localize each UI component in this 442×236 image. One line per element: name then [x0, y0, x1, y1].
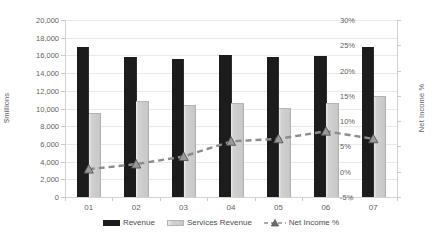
chart-container: $millions Net Income % 01020304050607 02… [0, 0, 442, 236]
y-axis-title-right: Net Income % [417, 84, 426, 132]
x-tick [302, 197, 303, 201]
y-axis-left-tick-label: 12,000 [19, 86, 59, 95]
x-axis-tick-label: 01 [84, 203, 93, 212]
y-tick-right [397, 20, 401, 21]
legend-item[interactable]: Revenue [103, 218, 155, 227]
x-tick [255, 197, 256, 201]
y-axis-left-tick-label: 14,000 [19, 69, 59, 78]
y-axis-left-tick-label: 16,000 [19, 51, 59, 60]
y-axis-left-tick-label: 6,000 [19, 139, 59, 148]
y-axis-left-tick-label: 2,000 [19, 175, 59, 184]
y-axis-right-tick-label: 10% [340, 117, 374, 126]
x-tick [65, 197, 66, 201]
dashed-line-triangle-swatch [264, 219, 286, 227]
y-axis-right-tick-label: -5% [340, 193, 374, 202]
x-axis-tick-label: 03 [179, 203, 188, 212]
legend-item[interactable]: Net Income % [264, 218, 339, 227]
y-axis-left-tick-label: 8,000 [19, 122, 59, 131]
y-axis-left-tick-label: 10,000 [19, 104, 59, 113]
x-axis-tick-label: 04 [227, 203, 236, 212]
y-axis-right-tick-label: 15% [340, 91, 374, 100]
y-axis-left-tick-label: 0 [19, 193, 59, 202]
y-tick-right [397, 71, 401, 72]
legend-item[interactable]: Services Revenue [167, 218, 252, 227]
x-axis-tick-label: 02 [132, 203, 141, 212]
legend-label: Revenue [123, 218, 155, 227]
net-income-marker [274, 134, 283, 143]
y-axis-left-tick-label: 18,000 [19, 33, 59, 42]
chart-legend: RevenueServices RevenueNet Income % [0, 218, 442, 227]
x-tick [397, 197, 398, 201]
legend-label: Net Income % [289, 218, 339, 227]
y-axis-left-tick-label: 4,000 [19, 157, 59, 166]
x-tick [207, 197, 208, 201]
y-axis-right-tick-label: 25% [340, 41, 374, 50]
y-tick-right [397, 45, 401, 46]
y-axis-right-line [397, 20, 398, 197]
x-tick [160, 197, 161, 201]
net-income-marker [226, 137, 235, 146]
y-tick-right [397, 146, 401, 147]
y-axis-right-tick-label: 0% [340, 167, 374, 176]
x-tick [112, 197, 113, 201]
y-axis-title-left: $millions [2, 93, 11, 123]
y-tick-right [397, 172, 401, 173]
x-axis-tick-label: 05 [274, 203, 283, 212]
y-axis-right-tick-label: 5% [340, 142, 374, 151]
y-axis-left-tick-label: 20,000 [19, 16, 59, 25]
y-axis-right-tick-label: 30% [340, 16, 374, 25]
x-axis-tick-label: 06 [321, 203, 330, 212]
x-axis-tick-label: 07 [369, 203, 378, 212]
bar-black-swatch [103, 220, 120, 226]
y-tick-right [397, 121, 401, 122]
legend-label: Services Revenue [187, 218, 252, 227]
bar-gray-swatch [167, 220, 184, 226]
y-axis-right-tick-label: 20% [340, 66, 374, 75]
y-tick-right [397, 96, 401, 97]
